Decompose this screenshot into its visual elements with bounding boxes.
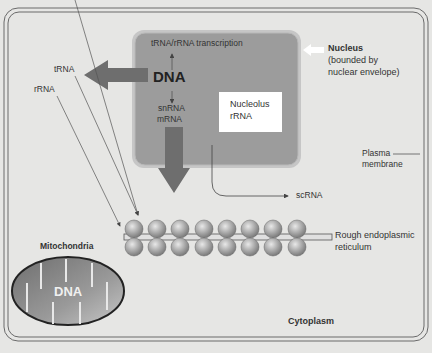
cytoplasm-label: Cytoplasm	[288, 316, 334, 327]
nucleus-pointer-arrow-icon	[303, 44, 324, 56]
rrna-pointer-line	[57, 96, 120, 226]
nucleolus-label: Nucleolus	[230, 99, 270, 110]
mrna-label: mRNA	[157, 114, 182, 125]
nucleus-description-1: (bounded by	[328, 55, 378, 66]
trna-pointer-line	[75, 0, 138, 215]
trna-pointer-line	[75, 76, 138, 215]
nucleus-dna-label: DNA	[153, 69, 186, 85]
transcription-label: tRNA/rRNA transcription	[151, 38, 243, 49]
nucleus-label: Nucleus	[328, 43, 363, 54]
nucleus-description-2: nuclear envelope)	[328, 67, 400, 78]
rer-label-1: Rough endoplasmic	[335, 230, 415, 241]
mitochondria-dna-label: DNA	[54, 285, 82, 299]
diagram-graphics	[0, 0, 432, 353]
snrna-label: snRNA	[158, 103, 185, 114]
nucleolus-rrna-label: rRNA	[230, 111, 252, 122]
plasma-membrane-label-1: Plasma	[362, 148, 390, 159]
rer-label-2: reticulum	[335, 242, 372, 253]
mitochondria-label: Mitochondria	[40, 241, 93, 252]
scrna-label: scRNA	[296, 190, 322, 201]
trna-label: tRNA	[54, 64, 74, 75]
rrna-label: rRNA	[34, 84, 55, 95]
plasma-membrane-label-2: membrane	[362, 159, 403, 170]
